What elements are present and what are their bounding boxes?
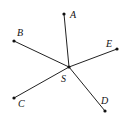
point-d bbox=[103, 109, 106, 112]
segment-sd bbox=[69, 67, 105, 111]
point-s bbox=[67, 65, 70, 68]
rays-diagram: SABECD bbox=[0, 0, 125, 118]
point-c bbox=[12, 96, 15, 99]
segment-sa bbox=[64, 14, 69, 67]
label-e: E bbox=[105, 38, 112, 49]
point-e bbox=[115, 47, 118, 50]
label-a: A bbox=[69, 9, 77, 20]
point-a bbox=[62, 12, 65, 15]
label-b: B bbox=[17, 27, 23, 38]
segment-se bbox=[69, 49, 117, 67]
label-d: D bbox=[100, 95, 109, 106]
label-c: C bbox=[18, 98, 25, 109]
segment-sb bbox=[14, 41, 69, 67]
label-s: S bbox=[61, 73, 66, 84]
point-b bbox=[12, 39, 15, 42]
